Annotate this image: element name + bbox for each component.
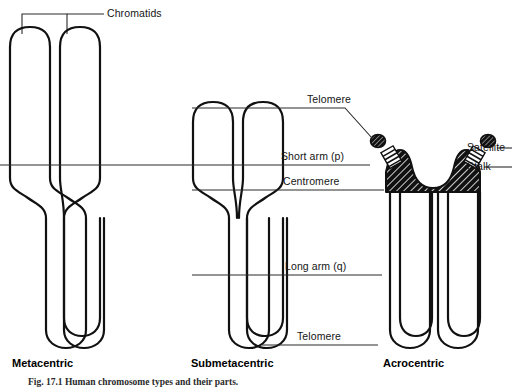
label-satellite: Satellite [467,142,505,153]
caption-submetacentric: Submetacentric [191,358,274,369]
label-telomere-top: Telomere [307,94,351,105]
label-stalk: Stalk [467,161,491,172]
leader-lines [0,108,512,345]
satellite-left [371,135,386,148]
label-telomere-bottom: Telomere [297,331,341,342]
acrocentric-centromere-region [386,150,480,192]
label-chromatids: Chromatids [107,8,162,19]
chromosome-metacentric [10,27,104,348]
label-short-arm: Short arm (p) [281,151,344,162]
chromatids-leader [22,14,104,34]
label-centromere: Centromere [283,176,339,187]
caption-metacentric: Metacentric [12,358,73,369]
figure-caption: Fig. 17.1 Human chromosome types and the… [28,378,238,388]
label-long-arm: Long arm (q) [285,261,346,272]
chromosome-submetacentric [193,102,287,348]
caption-acrocentric: Acrocentric [383,358,444,369]
